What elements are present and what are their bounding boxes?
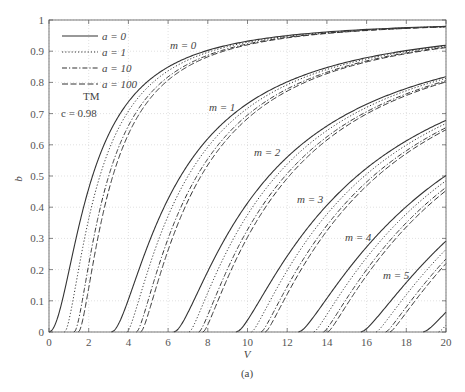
y-tick-label: 0.5	[30, 170, 44, 182]
curve-m3-a10	[261, 128, 446, 332]
y-tick-label: 0.8	[30, 76, 44, 88]
x-tick-label: 12	[282, 336, 293, 348]
y-tick-label: 0.1	[30, 295, 44, 307]
x-tick-label: 2	[86, 336, 92, 348]
mode-label: m = 0	[170, 39, 197, 51]
bV-dispersion-chart: 0246810121416182000.10.20.30.40.50.60.70…	[0, 0, 465, 392]
curve-m6-a0	[423, 312, 446, 332]
curve-m5-a1	[376, 249, 446, 332]
figure-caption: (a)	[241, 367, 254, 380]
x-tick-label: 8	[205, 336, 211, 348]
y-axis-label: b	[12, 176, 24, 182]
legend-label-a10: a = 10	[102, 62, 132, 74]
y-tick-label: 0.3	[30, 232, 44, 244]
curve-m4-a100	[328, 191, 446, 332]
y-tick-label: 1	[39, 14, 45, 26]
x-tick-label: 10	[242, 336, 254, 348]
y-tick-label: 0.2	[30, 264, 44, 276]
y-tick-label: 0	[39, 326, 45, 338]
curve-m1-a1	[127, 46, 446, 332]
x-tick-label: 4	[126, 336, 132, 348]
mode-label: m = 3	[297, 193, 324, 205]
y-tick-label: 0.4	[30, 201, 44, 213]
legend-label-a100: a = 100	[102, 78, 137, 90]
mode-label: m = 5	[383, 269, 410, 281]
axis-ticks: 0246810121416182000.10.20.30.40.50.60.70…	[30, 14, 452, 348]
legend-label-a1: a = 1	[102, 46, 126, 58]
x-tick-label: 16	[361, 336, 373, 348]
annotation-label: TM	[83, 90, 100, 102]
y-tick-label: 0.6	[30, 139, 44, 151]
curve-m5-a0	[361, 241, 446, 332]
x-tick-label: 20	[441, 336, 453, 348]
mode-label: m = 2	[254, 146, 281, 158]
mode-label: m = 1	[209, 101, 235, 113]
x-tick-label: 0	[46, 336, 52, 348]
curve-m1-a10	[136, 47, 446, 332]
annotations: TMc = 0.98m = 0m = 1m = 2m = 3m = 4m = 5	[61, 39, 410, 281]
x-tick-label: 14	[321, 336, 333, 348]
legend-label-a0: a = 0	[102, 30, 126, 42]
x-tick-label: 18	[401, 336, 413, 348]
curve-m2-a10	[199, 81, 446, 332]
mode-label: m = 4	[345, 231, 372, 243]
annotation-label: c = 0.98	[61, 107, 97, 119]
legend: a = 0a = 1a = 10a = 100	[62, 30, 137, 90]
y-tick-label: 0.7	[30, 108, 44, 120]
x-tick-label: 6	[165, 336, 171, 348]
x-axis-label: V	[244, 348, 252, 360]
y-tick-label: 0.9	[30, 45, 44, 57]
curve-m6-a1	[439, 325, 446, 332]
